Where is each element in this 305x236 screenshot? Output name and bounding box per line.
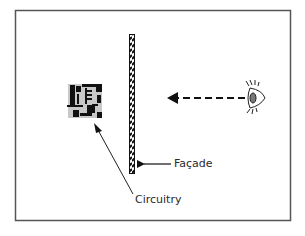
circuitry-icon [67,84,102,118]
circuitry-label: Circuitry [135,194,181,205]
facade-label: Façade [174,158,213,169]
gaze-arrow [167,92,245,104]
diagram-frame [16,11,291,221]
eye-icon [246,80,265,114]
facade-wall [130,35,135,174]
circuitry-pointer-arrow [94,123,133,194]
